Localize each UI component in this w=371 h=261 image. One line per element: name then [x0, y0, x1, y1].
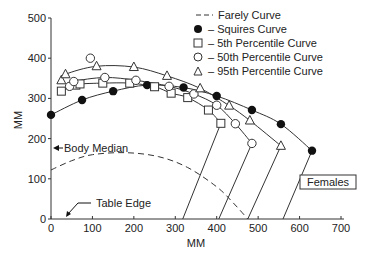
x-tick-label: 0: [48, 222, 54, 234]
y-tick-label: 400: [28, 52, 46, 64]
annotation-females: Females: [300, 175, 356, 189]
body-median-label: Body Median: [64, 142, 128, 154]
legend-label: Farely Curve: [218, 9, 281, 21]
open-circle-marker: [213, 101, 221, 109]
legend-item-95th: – 95th Percentile Curve: [194, 65, 323, 77]
x-tick-label: 100: [83, 222, 101, 234]
legend-label: – Squires Curve: [208, 23, 287, 35]
filled-circle-marker: [47, 111, 55, 119]
x-tick-label: 500: [249, 222, 267, 234]
filled-circle-marker: [78, 96, 86, 104]
open-triangle-marker: [196, 83, 205, 92]
open-triangle-marker: [276, 141, 285, 150]
open-square-marker: [204, 106, 212, 114]
filled-circle-marker: [213, 92, 221, 100]
x-tick-label: 200: [125, 222, 143, 234]
y-tick-label: 100: [28, 173, 46, 185]
filled-circle-icon: [194, 25, 202, 33]
y-ticks: 0100200300400500: [28, 12, 51, 225]
drop-line: [248, 146, 281, 219]
farely-curve: [51, 153, 248, 219]
open-circle-marker: [231, 120, 239, 128]
y-tick-label: 200: [28, 133, 46, 145]
open-circle-marker: [101, 73, 109, 81]
open-circle-marker: [165, 82, 173, 90]
females-label: Females: [307, 176, 350, 188]
x-axis-label: MM: [187, 237, 205, 249]
y-axis-label: MM: [12, 111, 24, 129]
open-triangle-icon: [194, 67, 202, 75]
legend-item-farely: Farely Curve: [196, 9, 281, 21]
chart: 0100200300400500600700 0100200300400500 …: [0, 0, 371, 261]
fitted-curve: [70, 77, 252, 143]
filled-circle-marker: [179, 83, 187, 91]
open-square-icon: [194, 39, 202, 47]
filled-circle-marker: [143, 81, 151, 89]
open-square-marker: [217, 119, 225, 127]
legend-item-50th: – 50th Percentile Curve: [194, 51, 323, 63]
legend-item-squires: – Squires Curve: [194, 23, 287, 35]
drop-line: [219, 143, 252, 219]
legend: Farely Curve – Squires Curve – 5th Perce…: [194, 9, 323, 77]
filled-circle-marker: [277, 120, 285, 128]
open-triangle-marker: [245, 116, 254, 125]
open-circle-icon: [194, 53, 202, 61]
y-tick-label: 500: [28, 12, 46, 24]
y-tick-label: 0: [40, 213, 46, 225]
legend-label: – 95th Percentile Curve: [208, 65, 323, 77]
annotation-body-median: Body Median: [53, 142, 128, 154]
legend-label: – 50th Percentile Curve: [208, 51, 323, 63]
open-circle-marker: [132, 76, 140, 84]
legend-label: – 5th Percentile Curve: [208, 37, 317, 49]
open-circle-marker: [86, 54, 94, 62]
open-square-marker: [151, 83, 159, 91]
drop-line: [183, 123, 221, 219]
annotation-table-edge: Table Edge: [66, 197, 151, 217]
x-tick-label: 700: [332, 222, 350, 234]
y-tick-label: 300: [28, 92, 46, 104]
filled-circle-marker: [248, 106, 256, 114]
open-circle-marker: [248, 139, 256, 147]
filled-circle-marker: [308, 146, 316, 154]
open-circle-marker: [70, 77, 78, 85]
x-tick-label: 600: [290, 222, 308, 234]
fitted-curve: [51, 85, 312, 151]
x-tick-label: 400: [208, 222, 226, 234]
filled-circle-marker: [109, 87, 117, 95]
x-tick-label: 300: [166, 222, 184, 234]
legend-item-5th: – 5th Percentile Curve: [194, 37, 317, 49]
open-square-marker: [57, 87, 65, 95]
table-edge-label: Table Edge: [96, 197, 151, 209]
